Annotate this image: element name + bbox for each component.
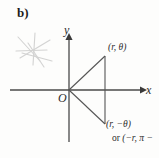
ray-to-upper-point — [69, 56, 105, 90]
point-label-lower: (r, −θ) — [106, 120, 131, 130]
origin-label: O — [58, 92, 67, 104]
star-scribble-icon — [14, 31, 56, 71]
point-label-alternate-prefix: or — [112, 133, 122, 143]
ray-to-lower-point — [69, 90, 105, 124]
x-axis-label: x — [146, 84, 151, 96]
point-label-alternate: or (−r, π − — [112, 134, 153, 144]
polar-coordinates-figure: b) y x O (r, θ) (r, −θ) or (−r, π − — [0, 0, 159, 158]
point-label-upper: (r, θ) — [108, 43, 126, 53]
point-label-alternate-value: (−r, π − — [122, 133, 153, 143]
y-axis-label: y — [64, 24, 69, 36]
part-label: b) — [17, 6, 29, 19]
